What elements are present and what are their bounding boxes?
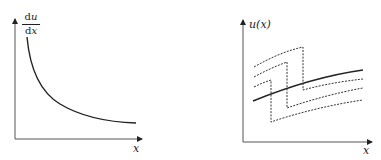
- right-plot: [243, 20, 372, 142]
- dashed-curve-bottom: [254, 80, 363, 122]
- left-x-axis-label: x: [133, 143, 139, 154]
- diagram-canvas: [0, 0, 381, 160]
- left-plot: [15, 19, 142, 139]
- derivative-curve: [27, 37, 136, 123]
- dashed-curve-middle: [254, 62, 363, 108]
- num-var: u: [31, 11, 37, 22]
- right-x-axis-label: x: [363, 145, 369, 156]
- right-y-axis-label: u(x): [249, 19, 271, 30]
- solid-curve: [253, 70, 363, 101]
- left-y-axis-label: du dx: [22, 12, 40, 36]
- den-var: x: [31, 25, 37, 36]
